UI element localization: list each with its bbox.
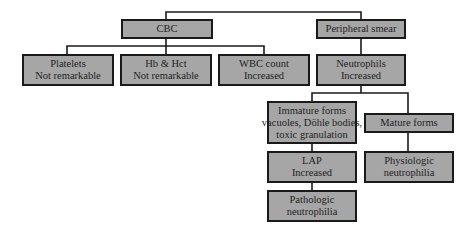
node-mature-forms: Mature forms	[364, 113, 454, 133]
node-label: Not remarkable	[35, 70, 101, 82]
node-label: Platelets	[50, 58, 86, 70]
node-wbc-count: WBC count Increased	[218, 54, 310, 86]
node-label: Peripheral smear	[326, 23, 397, 35]
node-lap: LAP Increased	[267, 151, 357, 183]
node-label: Increased	[244, 70, 284, 82]
node-label: Neutrophils	[336, 58, 386, 70]
node-label: Physiologic	[384, 155, 434, 167]
node-label: Increased	[292, 167, 332, 179]
node-label: Not remarkable	[133, 70, 199, 82]
node-peripheral-smear: Peripheral smear	[316, 19, 406, 39]
node-label: LAP	[302, 155, 322, 167]
node-label: Pathologic	[290, 194, 335, 206]
node-label: CBC	[156, 23, 177, 35]
node-neutrophils: Neutrophils Increased	[316, 54, 406, 86]
node-label: vacuoles, Döhle bodies,	[262, 117, 362, 129]
node-label: Hb & Hct	[145, 58, 186, 70]
neutrophilia-flowchart: CBC Peripheral smear Platelets Not remar…	[0, 0, 475, 227]
node-label: Immature forms	[278, 105, 346, 117]
node-cbc: CBC	[121, 19, 213, 39]
node-platelets: Platelets Not remarkable	[22, 54, 114, 86]
node-label: Increased	[341, 70, 381, 82]
node-immature-forms: Immature forms vacuoles, Döhle bodies, t…	[267, 101, 357, 144]
node-label: Mature forms	[380, 117, 437, 129]
node-label: toxic granulation	[276, 129, 347, 141]
node-hb-hct: Hb & Hct Not remarkable	[120, 54, 212, 86]
node-label: WBC count	[239, 58, 289, 70]
node-pathologic-neutrophilia: Pathologic neutrophilia	[267, 190, 357, 222]
node-physiologic-neutrophilia: Physiologic neutrophilia	[364, 151, 454, 183]
node-label: neutrophilia	[287, 206, 338, 218]
node-label: neutrophilia	[384, 167, 435, 179]
